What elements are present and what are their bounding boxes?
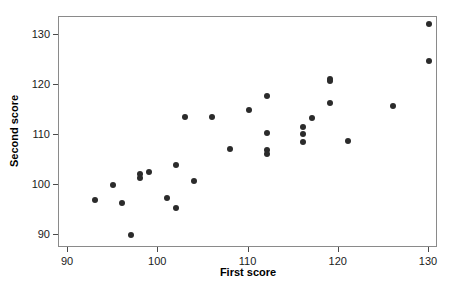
x-tick-mark	[67, 247, 68, 252]
x-axis-label: First score	[220, 266, 276, 278]
x-tick-label: 120	[329, 255, 347, 267]
y-axis-label: Second score	[8, 95, 20, 167]
scatter-plot-figure: 90100110120130 90100110120130 Second sco…	[0, 0, 455, 293]
x-tick-label: 90	[61, 255, 73, 267]
x-tick-label: 130	[419, 255, 437, 267]
x-tick-mark	[338, 247, 339, 252]
x-tick-mark	[248, 247, 249, 252]
x-axis: 90100110120130	[0, 0, 455, 293]
x-tick-mark	[157, 247, 158, 252]
x-tick-mark	[428, 247, 429, 252]
x-tick-label: 100	[148, 255, 166, 267]
